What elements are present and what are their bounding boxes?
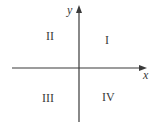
quadrant-diagram: y x I II III IV	[0, 0, 156, 133]
y-axis-label: y	[66, 3, 73, 17]
y-axis-arrow-icon	[76, 5, 82, 13]
x-axis-label: x	[142, 68, 149, 82]
quadrant-ii-label: II	[46, 29, 54, 43]
quadrant-iv-label: IV	[102, 90, 115, 104]
quadrant-iii-label: III	[42, 91, 54, 105]
quadrant-i-label: I	[105, 33, 109, 47]
